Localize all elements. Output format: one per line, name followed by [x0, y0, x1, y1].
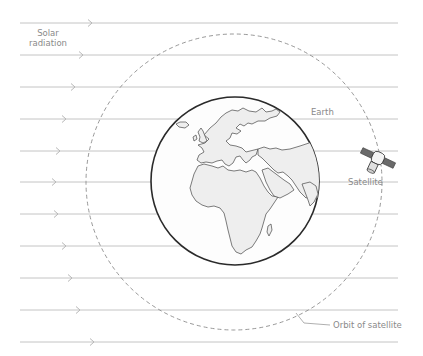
- ray: [20, 307, 398, 314]
- satellite-label: Satellite: [348, 177, 383, 187]
- orbit-leader-line: [296, 313, 330, 325]
- earth-label: Earth: [311, 107, 334, 117]
- solar-radiation-label-line2: radiation: [29, 38, 67, 48]
- ray: [20, 84, 398, 91]
- satellite-icon: [355, 145, 397, 181]
- orbit-label: Orbit of satellite: [333, 320, 402, 330]
- earth: [151, 97, 322, 265]
- ray: [20, 275, 398, 282]
- ray: [20, 52, 398, 59]
- solar-radiation-label-line1: Solar: [37, 28, 59, 38]
- ray: [20, 339, 398, 346]
- ray: [20, 20, 398, 27]
- solar-radiation-orbit-diagram: Solar radiation Earth Satellite Orbit of…: [0, 0, 423, 356]
